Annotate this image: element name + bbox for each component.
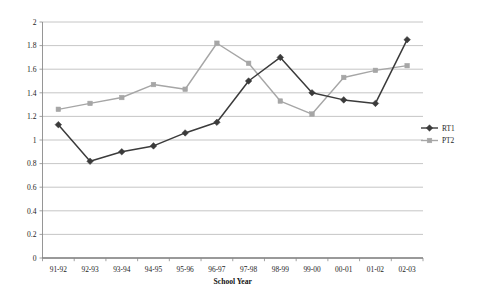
chart-canvas: 00.20.40.60.811.21.41.61.82 91-9292-9393… xyxy=(0,0,482,300)
y-tick-label: 2 xyxy=(33,18,37,27)
x-tick-label: 01-02 xyxy=(367,265,385,274)
chart-legend: RT1PT2 xyxy=(421,124,455,146)
series-layer xyxy=(55,36,410,164)
y-tick-label: 0 xyxy=(33,254,37,263)
data-point-marker xyxy=(340,97,347,104)
x-tick-label: 99-00 xyxy=(303,265,321,274)
x-tick-label: 92-93 xyxy=(81,265,99,274)
x-tick-label: 97-98 xyxy=(240,265,258,274)
data-point-marker xyxy=(183,87,188,92)
y-tick-label: 0.2 xyxy=(27,230,37,239)
x-tick-label: 93-94 xyxy=(113,265,131,274)
x-tick-label: 94-95 xyxy=(145,265,163,274)
data-point-marker xyxy=(118,149,125,156)
x-tick-label: 96-97 xyxy=(208,265,226,274)
data-point-marker xyxy=(310,112,315,117)
x-tick-label: 02-03 xyxy=(399,265,417,274)
y-axis xyxy=(40,22,43,258)
data-point-marker xyxy=(56,107,61,112)
y-tick-label: 1.6 xyxy=(27,65,37,74)
x-axis xyxy=(43,258,424,261)
data-point-marker xyxy=(151,82,156,87)
legend-label: PT2 xyxy=(442,136,455,145)
series-line xyxy=(58,43,407,114)
data-point-marker xyxy=(88,101,93,106)
data-point-marker xyxy=(246,61,251,66)
x-tick-label: 00-01 xyxy=(335,265,353,274)
data-point-marker xyxy=(404,36,411,43)
data-point-marker xyxy=(426,125,433,132)
y-tick-label: 1.4 xyxy=(27,89,37,98)
data-point-marker xyxy=(215,41,220,46)
data-point-marker xyxy=(150,143,157,150)
data-point-marker xyxy=(427,138,432,143)
x-tick-labels: 91-9292-9393-9494-9595-9696-9797-9898-99… xyxy=(50,265,416,274)
legend-label: RT1 xyxy=(442,124,455,133)
y-tick-label: 1.8 xyxy=(27,41,37,50)
data-point-marker xyxy=(182,130,189,137)
line-chart: 00.20.40.60.811.21.41.61.82 91-9292-9393… xyxy=(0,0,482,300)
y-tick-label: 0.4 xyxy=(27,207,37,216)
x-tick-label: 95-96 xyxy=(177,265,195,274)
x-tick-label: 91-92 xyxy=(50,265,68,274)
y-tick-label: 1 xyxy=(33,136,37,145)
legend-item-pt2: PT2 xyxy=(421,136,455,145)
y-tick-labels: 00.20.40.60.811.21.41.61.82 xyxy=(27,18,37,263)
axis-title-x: School Year xyxy=(214,277,253,286)
y-tick-label: 0.6 xyxy=(27,183,37,192)
series-pt2 xyxy=(56,41,409,116)
gridlines xyxy=(43,22,424,258)
x-tick-label: 98-99 xyxy=(272,265,290,274)
data-point-marker xyxy=(372,100,379,107)
data-point-marker xyxy=(405,63,410,68)
y-tick-label: 1.2 xyxy=(27,112,37,121)
x-axis-title: School Year xyxy=(214,277,253,286)
legend-item-rt1: RT1 xyxy=(421,124,455,133)
data-point-marker xyxy=(341,75,346,80)
data-point-marker xyxy=(278,99,283,104)
data-point-marker xyxy=(373,68,378,73)
series-line xyxy=(58,40,407,162)
y-tick-label: 0.8 xyxy=(27,159,37,168)
data-point-marker xyxy=(119,95,124,100)
